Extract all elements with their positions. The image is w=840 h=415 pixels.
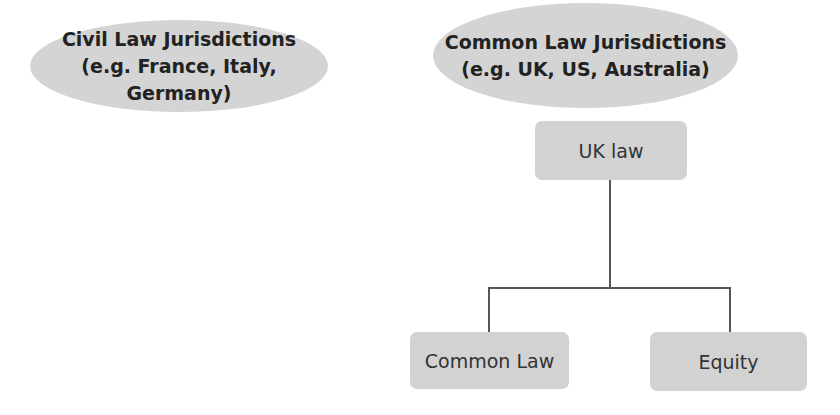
- common-law-label: Common Law: [425, 350, 554, 372]
- civil-law-title: Civil Law Jurisdictions: [62, 26, 296, 53]
- civil-law-ellipse: Civil Law Jurisdictions (e.g. France, It…: [30, 20, 328, 112]
- common-law-title: Common Law Jurisdictions: [445, 29, 727, 56]
- common-law-examples: (e.g. UK, US, Australia): [461, 56, 710, 83]
- connector-left-child: [488, 287, 490, 332]
- connector-horizontal: [488, 287, 731, 289]
- connector-right-child: [729, 287, 731, 332]
- common-law-ellipse: Common Law Jurisdictions (e.g. UK, US, A…: [433, 3, 738, 108]
- uk-law-label: UK law: [579, 140, 644, 162]
- uk-law-box: UK law: [535, 121, 687, 180]
- common-law-box: Common Law: [410, 332, 569, 389]
- equity-box: Equity: [650, 332, 807, 391]
- equity-label: Equity: [698, 351, 758, 373]
- civil-law-examples: (e.g. France, Italy, Germany): [30, 53, 328, 107]
- connector-vertical-root: [609, 180, 611, 289]
